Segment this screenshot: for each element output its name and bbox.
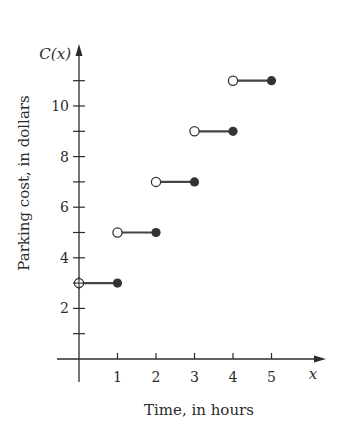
axes [57,52,318,382]
y-axis-variable: C(x) [39,45,71,63]
y-axis-title: Parking cost, in dollars [15,95,33,270]
open-dot [113,228,122,237]
step-segments [79,81,272,283]
x-tick-label: 2 [152,369,161,385]
open-dot [228,76,237,85]
closed-dot [151,228,160,237]
x-tick-label: 5 [267,369,276,385]
open-dot [151,177,160,186]
closed-dot [190,177,199,186]
x-axis-variable: x [309,365,318,383]
y-tick-label: 8 [60,149,69,165]
closed-endpoints [113,76,276,288]
x-tick-label: 1 [113,369,122,385]
y-tick-label: 10 [51,98,69,114]
y-tick-label: 6 [60,199,69,215]
x-axis-arrow-icon [314,356,326,363]
closed-dot [267,76,276,85]
y-tick-label: 4 [60,250,69,266]
x-tick-label: 3 [190,369,199,385]
open-dot [190,127,199,136]
x-axis-title: Time, in hours [144,401,254,419]
open-endpoints [74,76,237,288]
x-tick-label: 4 [229,369,238,385]
y-axis-arrow-icon [76,44,83,56]
y-tick-labels: 2 4 6 8 10 [51,98,69,316]
y-tick-label: 2 [60,300,69,316]
closed-dot [228,127,237,136]
closed-dot [113,279,122,288]
x-ticks [118,353,272,359]
step-chart: 1 2 3 4 5 2 4 6 8 10 C(x) x Time, in hou… [0,0,341,443]
x-tick-labels: 1 2 3 4 5 [113,369,276,385]
